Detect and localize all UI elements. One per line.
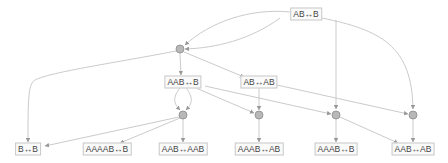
event-node [409, 111, 417, 119]
state-node-6: AAAB↔AB [235, 143, 284, 156]
state-node-4: AAAAB↔B [83, 143, 132, 156]
edge [340, 117, 398, 143]
state-node-7: AAAB↔B [315, 143, 358, 156]
edge [180, 53, 181, 75]
edge [184, 52, 244, 77]
edge [120, 118, 180, 143]
state-node-0: AB↔B [290, 8, 322, 21]
state-node-5: AAB↔AAB [159, 143, 208, 156]
state-node-8: AAB↔AB [392, 143, 435, 156]
edge [196, 88, 254, 113]
state-node-1: AAB↔B [164, 76, 201, 89]
event-node [255, 111, 263, 119]
state-node-2: AB↔AB [240, 76, 277, 89]
edge [277, 85, 408, 114]
edge [186, 88, 191, 110]
event-node [176, 45, 184, 53]
event-node [332, 111, 340, 119]
edge [175, 88, 180, 110]
state-node-3: B↔B [15, 143, 41, 156]
graph-canvas [0, 0, 448, 163]
edge [28, 51, 176, 142]
event-node [179, 111, 187, 119]
